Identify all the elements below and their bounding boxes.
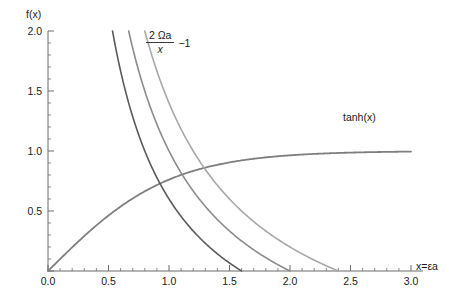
axis-lines-group	[48, 31, 423, 271]
y-tick-label: 1.5	[27, 85, 42, 97]
curve-hyperbola-1	[129, 31, 290, 271]
x-tick-label: 1.0	[162, 275, 177, 287]
x-tick-label: 0.5	[101, 275, 116, 287]
y-tick-label: 0.5	[27, 205, 42, 217]
y-tick-label: 1.0	[27, 145, 42, 157]
x-tick-label: 2.5	[343, 275, 358, 287]
formula-tail: −1	[178, 37, 190, 49]
curve-hyperbola-0.8	[113, 31, 242, 271]
plot-canvas: 0.00.51.01.52.02.53.00.51.01.52.0	[0, 0, 449, 303]
formula-numerator: 2 Ωa	[146, 30, 174, 42]
x-tick-label: 2.0	[283, 275, 298, 287]
x-axis-title: x=εa	[416, 260, 438, 272]
curves-group	[48, 31, 411, 271]
formula-annotation: 2 Ωa x −1	[146, 30, 190, 55]
x-tick-label: 1.5	[222, 275, 237, 287]
axis-ticks-group	[48, 31, 411, 271]
x-tick-label: 0.0	[41, 275, 56, 287]
x-tick-label: 3.0	[404, 275, 419, 287]
curve-tanh	[48, 152, 411, 271]
formula-denominator: x	[155, 43, 166, 55]
tick-labels-group: 0.00.51.01.52.02.53.00.51.01.52.0	[27, 25, 418, 287]
tanh-curve-label: tanh(x)	[343, 111, 376, 123]
y-axis-title: f(x)	[26, 8, 41, 20]
curve-hyperbola-1.2	[145, 31, 339, 271]
y-tick-label: 2.0	[27, 25, 42, 37]
